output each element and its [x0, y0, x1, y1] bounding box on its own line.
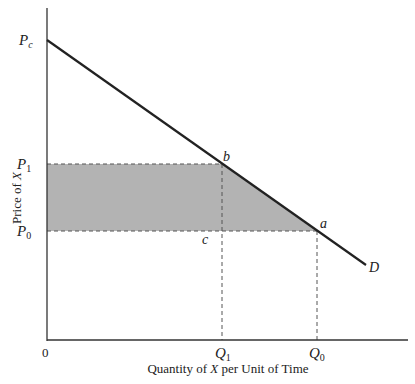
q0-label: Q0 — [309, 345, 325, 363]
point-b-label: b — [223, 149, 230, 164]
demand-chart: Pc P1 P0 0 Q1 Q0 b a c D Price of X Quan… — [0, 0, 415, 384]
pc-label: Pc — [18, 32, 33, 50]
p0-label: P0 — [16, 223, 31, 241]
origin-label: 0 — [42, 345, 49, 360]
point-c-label: c — [202, 232, 209, 247]
point-a-label: a — [320, 216, 327, 231]
y-axis-title: Price of X — [9, 171, 24, 224]
p1-label: P1 — [16, 156, 31, 174]
curve-d-label: D — [368, 260, 379, 275]
x-axis-title: Quantity of X per Unit of Time — [147, 361, 308, 376]
shaded-area — [47, 164, 317, 231]
